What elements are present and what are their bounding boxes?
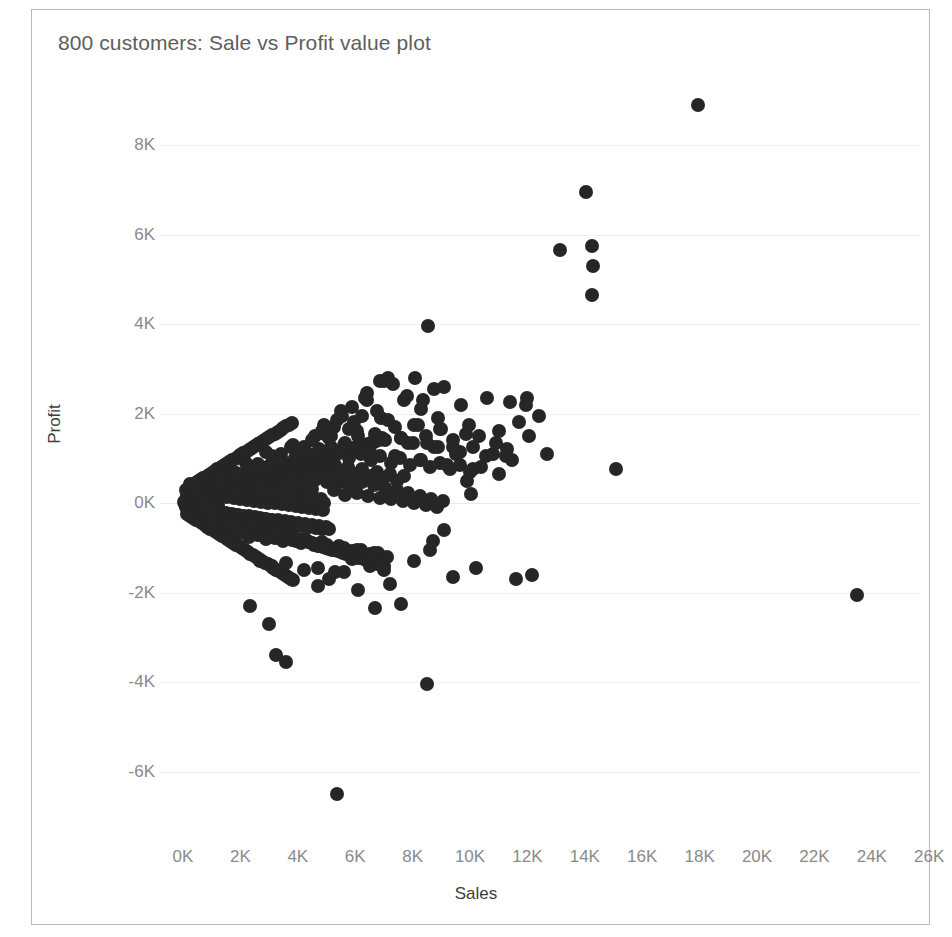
y-axis-tick-label: 0K <box>95 493 155 513</box>
x-axis-tick-label: 10K <box>440 847 500 867</box>
x-axis-tick-label: 8K <box>383 847 443 867</box>
x-axis-tick-label: 14K <box>555 847 615 867</box>
y-axis-tick-labels: 8K6K4K2K0K-2K-4K-6K <box>95 0 155 937</box>
x-axis-tick-label: 2K <box>210 847 270 867</box>
x-axis-tick-label: 4K <box>268 847 328 867</box>
y-axis-tick-label: 8K <box>95 135 155 155</box>
x-axis-tick-label: 18K <box>670 847 730 867</box>
x-axis-tick-label: 24K <box>842 847 902 867</box>
x-axis-tick-label: 16K <box>612 847 672 867</box>
x-axis-tick-label: 20K <box>727 847 787 867</box>
x-axis-tick-label: 26K <box>899 847 952 867</box>
x-axis-tick-label: 22K <box>784 847 844 867</box>
x-axis-title: Sales <box>0 884 952 904</box>
y-axis-tick-label: -4K <box>95 672 155 692</box>
x-axis-tick-label: 0K <box>153 847 213 867</box>
x-axis-tick-label: 12K <box>497 847 557 867</box>
y-axis-tick-label: 4K <box>95 314 155 334</box>
y-axis-title: Profit <box>45 364 65 484</box>
y-axis-tick-label: 2K <box>95 404 155 424</box>
chart-frame: 800 customers: Sale vs Profit value plot <box>31 9 930 925</box>
x-axis-tick-label: 6K <box>325 847 385 867</box>
y-axis-tick-label: -2K <box>95 583 155 603</box>
y-axis-tick-label: -6K <box>95 762 155 782</box>
y-axis-tick-label: 6K <box>95 225 155 245</box>
